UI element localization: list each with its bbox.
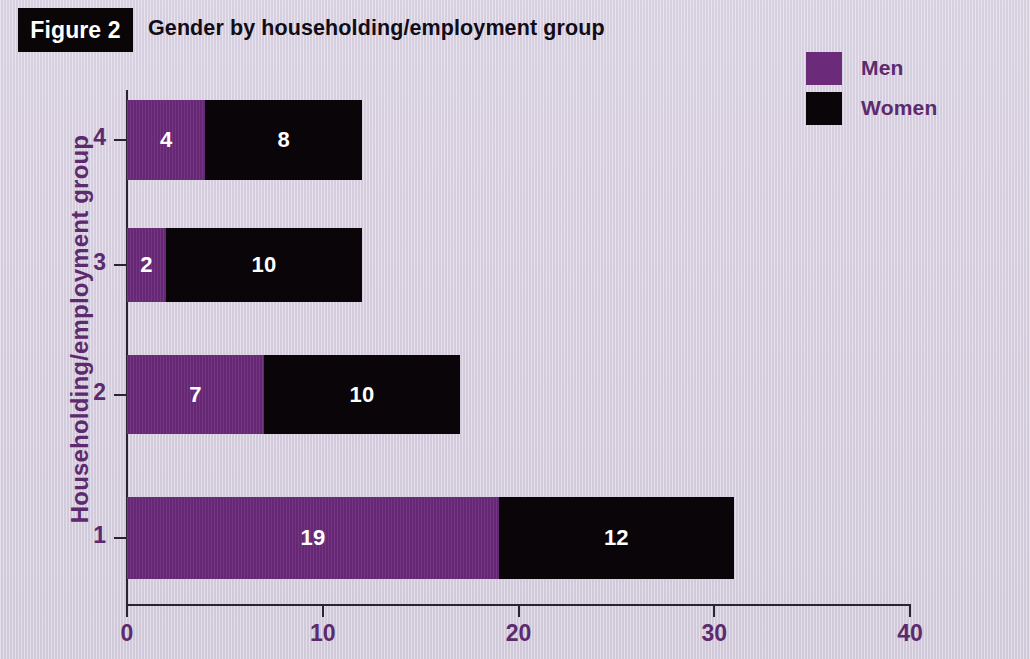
bar-segment-men-group-2: 7 — [127, 355, 264, 434]
bar-value-label: 7 — [189, 382, 201, 408]
bar-segment-women-group-1: 12 — [499, 497, 734, 579]
y-tick-mark-1 — [114, 537, 127, 539]
bar-segment-men-group-1: 19 — [127, 497, 499, 579]
bar-value-label: 2 — [140, 252, 152, 278]
x-tick-label-10: 10 — [288, 620, 358, 647]
bar-value-label: 8 — [277, 127, 289, 153]
x-tick-mark-20 — [518, 604, 520, 617]
x-tick-label-20: 20 — [484, 620, 554, 647]
x-tick-label-30: 30 — [679, 620, 749, 647]
bar-segment-men-group-4: 4 — [127, 100, 205, 180]
figure-panel: Figure 2 Gender by householding/employme… — [0, 0, 1030, 659]
x-tick-mark-30 — [713, 604, 715, 617]
bar-value-label: 4 — [160, 127, 172, 153]
y-tick-mark-2 — [114, 394, 127, 396]
x-tick-mark-0 — [126, 604, 128, 617]
x-tick-label-0: 0 — [92, 620, 162, 647]
y-tick-mark-3 — [114, 264, 127, 266]
bar-segment-women-group-4: 8 — [205, 100, 362, 180]
y-tick-label-4: 4 — [72, 124, 106, 151]
x-tick-label-40: 40 — [875, 620, 945, 647]
bar-value-label: 12 — [604, 525, 629, 551]
chart-plot-area: Householding/employment group 4321 01020… — [0, 0, 1030, 659]
bar-segment-women-group-3: 10 — [166, 228, 362, 302]
y-tick-mark-4 — [114, 139, 127, 141]
x-tick-mark-10 — [322, 604, 324, 617]
bar-value-label: 19 — [301, 525, 326, 551]
bar-segment-men-group-3: 2 — [127, 228, 166, 302]
bar-value-label: 10 — [349, 382, 374, 408]
bar-value-label: 10 — [252, 252, 277, 278]
y-tick-label-2: 2 — [72, 379, 106, 406]
y-axis-title: Householding/employment group — [66, 94, 94, 564]
y-tick-label-1: 1 — [72, 522, 106, 549]
bar-segment-women-group-2: 10 — [264, 355, 460, 434]
bar-group-3: 210 — [127, 228, 362, 302]
y-tick-label-3: 3 — [72, 249, 106, 276]
bar-group-1: 1912 — [127, 497, 734, 579]
bar-group-2: 710 — [127, 355, 460, 434]
bar-group-4: 48 — [127, 100, 362, 180]
x-tick-mark-40 — [909, 604, 911, 617]
